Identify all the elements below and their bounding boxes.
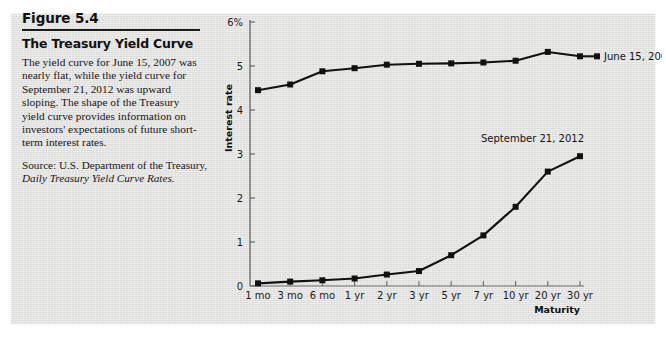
x-axis-ticks: 1 mo3 mo6 mo1 yr2 yr3 yr5 yr7 yr10 yr20 … <box>245 281 594 301</box>
x-tick-label: 1 yr <box>345 290 365 301</box>
y-axis-title: Interest rate <box>223 84 234 152</box>
series-line <box>258 156 580 283</box>
series-labels: June 15, 2007September 21, 2012 <box>481 51 662 144</box>
data-point-marker <box>319 68 325 74</box>
figure-number: Figure 5.4 <box>22 10 212 26</box>
data-point-marker <box>352 65 358 71</box>
figure-divider <box>22 29 200 31</box>
figure-title: The Treasury Yield Curve <box>22 36 212 51</box>
x-tick-label: 2 yr <box>377 290 397 301</box>
y-tick-label: 4 <box>237 105 243 116</box>
data-point-marker <box>545 169 551 175</box>
yield-curve-chart: 0123456% 1 mo3 mo6 mo1 yr2 yr3 yr5 yr7 y… <box>222 6 662 326</box>
data-point-marker <box>255 87 261 93</box>
data-point-marker <box>448 252 454 258</box>
data-point-marker <box>513 58 519 64</box>
data-point-marker <box>480 59 486 65</box>
y-tick-label: 1 <box>237 237 243 248</box>
data-point-marker <box>416 61 422 67</box>
x-tick-label: 1 mo <box>245 290 270 301</box>
series-line <box>258 52 580 90</box>
x-axis-title: Maturity <box>534 304 581 315</box>
y-tick-label: 2 <box>237 193 243 204</box>
series-label-2012: September 21, 2012 <box>481 133 584 144</box>
source-line-1: Source: U.S. Department of the Treasury, <box>22 159 207 171</box>
x-tick-label: 10 yr <box>503 290 530 301</box>
source-line-2: Daily Treasury Yield Curve Rates. <box>22 172 175 184</box>
data-point-marker <box>480 232 486 238</box>
data-point-marker <box>545 49 551 55</box>
caption-column: Figure 5.4 The Treasury Yield Curve The … <box>22 10 212 185</box>
chart-area: 0123456% 1 mo3 mo6 mo1 yr2 yr3 yr5 yr7 y… <box>222 6 662 326</box>
data-point-marker <box>287 279 293 285</box>
series-label-2007: June 15, 2007 <box>603 51 662 62</box>
data-point-marker <box>287 81 293 87</box>
series-layer <box>255 49 600 286</box>
y-tick-label: 0 <box>237 281 243 292</box>
x-tick-label: 3 yr <box>409 290 429 301</box>
data-point-marker <box>319 277 325 283</box>
y-tick-label: 3 <box>237 149 243 160</box>
data-point-marker <box>255 280 261 286</box>
y-axis-ticks: 0123456% <box>227 17 255 292</box>
x-tick-label: 7 yr <box>474 290 494 301</box>
figure-description: The yield curve for June 15, 2007 was ne… <box>22 56 204 150</box>
data-point-marker <box>416 268 422 274</box>
x-tick-label: 20 yr <box>535 290 562 301</box>
figure-root: Figure 5.4 The Treasury Yield Curve The … <box>0 0 666 337</box>
x-tick-label: 3 mo <box>277 290 302 301</box>
data-point-marker <box>448 60 454 66</box>
data-point-marker <box>384 272 390 278</box>
y-tick-label: 5 <box>237 61 243 72</box>
y-tick-label: 6% <box>227 17 243 28</box>
data-point-marker <box>352 276 358 282</box>
x-tick-label: 5 yr <box>441 290 461 301</box>
data-point-marker <box>513 204 519 210</box>
figure-source: Source: U.S. Department of the Treasury,… <box>22 159 208 185</box>
series-leader-marker <box>594 53 600 59</box>
data-point-marker <box>577 153 583 159</box>
x-tick-label: 6 mo <box>310 290 335 301</box>
data-point-marker <box>384 62 390 68</box>
x-tick-label: 30 yr <box>567 290 594 301</box>
